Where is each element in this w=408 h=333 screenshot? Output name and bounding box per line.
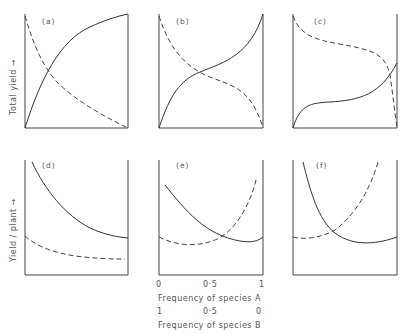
x-axis-label-species-a: Frequency of species A: [158, 294, 261, 303]
x-axis-annotation: 0 0·5 1 Frequency of species A 1 0·5 0 F…: [156, 280, 265, 330]
x-axis-label-species-b: Frequency of species B: [158, 321, 261, 330]
y-axis-label-total-yield: Total yield →: [9, 59, 18, 116]
panel-c-solid-curve: [293, 63, 397, 128]
panel-c-dashed-curve: [293, 16, 397, 128]
panel-f-label: (f): [316, 161, 328, 170]
panel-b-frame: [159, 14, 263, 128]
panel-a-frame: [25, 14, 128, 128]
panel-b-label: (b): [176, 17, 190, 26]
panel-b-dashed-curve: [159, 16, 263, 128]
panel-c: (c): [293, 14, 397, 128]
x-tick-A-1: 1: [259, 280, 265, 289]
panel-a-label: (a): [42, 17, 55, 26]
panel-c-label: (c): [314, 17, 327, 26]
panel-d: (d): [25, 160, 128, 275]
panel-f: (f): [293, 160, 397, 275]
panel-e-solid-curve: [165, 185, 263, 242]
panel-e-label: (e): [176, 161, 189, 170]
panel-c-frame: [293, 14, 397, 128]
panel-e: (e): [159, 160, 263, 275]
x-tick-B-0: 0: [256, 307, 262, 316]
panel-a-solid-curve: [25, 14, 128, 128]
panel-b: (b): [159, 14, 263, 128]
panel-a-dashed-curve: [25, 16, 128, 128]
panel-b-solid-curve: [159, 14, 263, 128]
panel-d-dashed-curve: [25, 236, 125, 259]
panel-e-dashed-curve: [159, 180, 256, 245]
panel-d-solid-curve: [32, 162, 128, 238]
x-tick-A-0: 0: [156, 280, 162, 289]
panel-a: (a): [25, 14, 128, 128]
figure-canvas: Total yield → Yield / plant → (a) (b) (c…: [0, 0, 408, 333]
panel-f-frame: [293, 160, 397, 275]
x-tick-A-05: 0·5: [203, 280, 217, 289]
y-axis-label-yield-per-plant: Yield / plant →: [9, 198, 18, 263]
x-tick-B-1: 1: [157, 307, 163, 316]
x-tick-B-05: 0·5: [203, 307, 217, 316]
panel-d-label: (d): [42, 161, 56, 170]
panel-f-solid-curve: [303, 162, 397, 243]
panel-e-frame: [159, 160, 263, 275]
